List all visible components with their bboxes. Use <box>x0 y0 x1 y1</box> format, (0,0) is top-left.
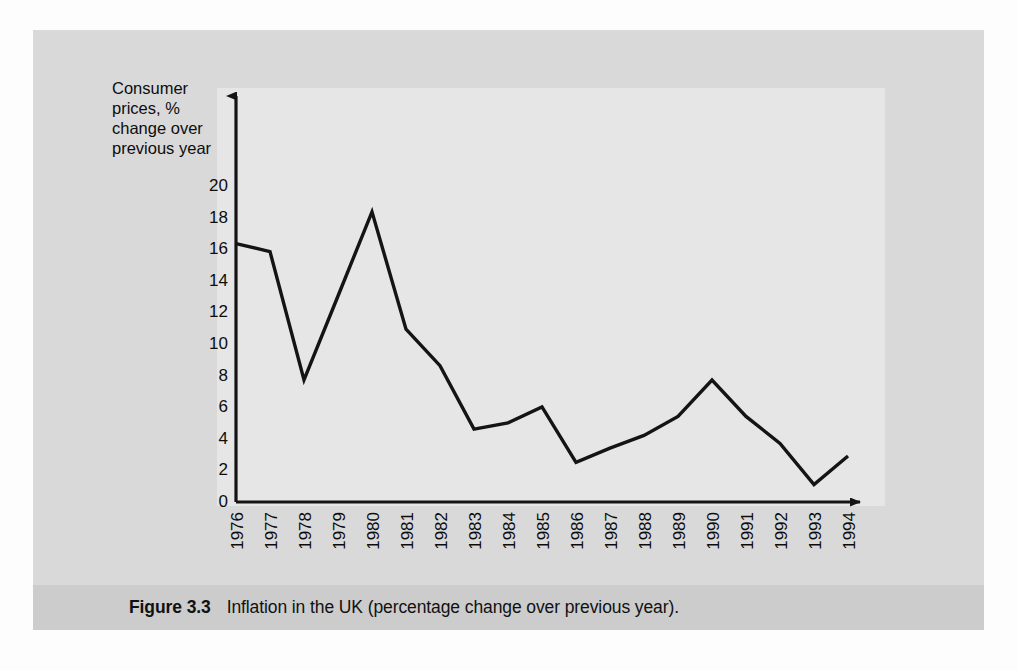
chart-axes <box>236 96 860 502</box>
y-tick-label: 10 <box>209 334 228 353</box>
y-tick-label-group: 20 18 16 14 12 10 8 6 4 2 0 <box>209 176 228 511</box>
y-tick-label: 0 <box>219 492 228 511</box>
figure-caption: Figure 3.3Inflation in the UK (percentag… <box>129 597 679 618</box>
x-tick-label: 1979 <box>330 512 349 550</box>
x-tick-label: 1989 <box>670 512 689 550</box>
y-tick-label: 18 <box>209 208 228 227</box>
y-tick-label: 16 <box>209 239 228 258</box>
y-tick-label: 14 <box>209 271 228 290</box>
x-tick-label: 1976 <box>228 512 247 550</box>
x-tick-label: 1991 <box>738 512 757 550</box>
x-tick-label: 1993 <box>806 512 825 550</box>
x-tick-label-group: 1976 1977 1978 1979 1980 1981 1982 1983 … <box>228 512 859 550</box>
x-tick-label: 1990 <box>704 512 723 550</box>
x-tick-label: 1985 <box>534 512 553 550</box>
y-tick-label: 6 <box>219 397 228 416</box>
y-tick-label: 4 <box>219 429 228 448</box>
line-chart: 20 18 16 14 12 10 8 6 4 2 0 1976 1977 19… <box>0 0 1017 671</box>
inflation-series-line <box>236 212 848 485</box>
x-tick-label: 1988 <box>636 512 655 550</box>
x-tick-label: 1980 <box>364 512 383 550</box>
x-tick-label: 1992 <box>772 512 791 550</box>
x-tick-label: 1977 <box>262 512 281 550</box>
y-tick-label: 20 <box>209 176 228 195</box>
x-tick-label: 1981 <box>398 512 417 550</box>
x-tick-label: 1984 <box>500 512 519 550</box>
x-tick-label: 1994 <box>840 512 859 550</box>
y-tick-label: 12 <box>209 302 228 321</box>
y-tick-label: 2 <box>219 460 228 479</box>
x-tick-label: 1978 <box>296 512 315 550</box>
x-tick-label: 1983 <box>466 512 485 550</box>
x-tick-label: 1987 <box>602 512 621 550</box>
figure-caption-text: Inflation in the UK (percentage change o… <box>227 597 679 617</box>
x-tick-label: 1982 <box>432 512 451 550</box>
figure-caption-label: Figure 3.3 <box>129 597 211 617</box>
figure-root: Consumer prices, % change over previous … <box>0 0 1017 671</box>
y-tick-label: 8 <box>219 366 228 385</box>
x-tick-label: 1986 <box>568 512 587 550</box>
figure-caption-band: Figure 3.3Inflation in the UK (percentag… <box>33 585 984 630</box>
